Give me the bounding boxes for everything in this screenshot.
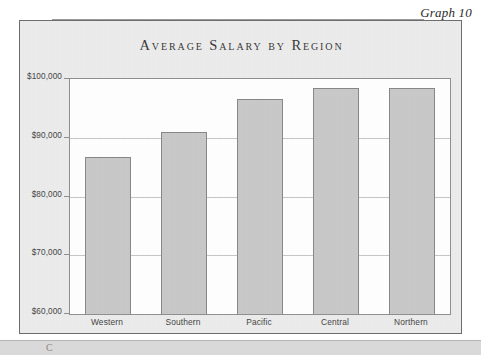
- x-axis-label: Western: [69, 317, 145, 335]
- x-axis-label: Pacific: [221, 317, 297, 335]
- bar-southern[interactable]: [161, 132, 207, 314]
- bar-pacific[interactable]: [237, 99, 283, 314]
- y-axis-tick-label: $70,000: [32, 248, 62, 257]
- x-axis-label: Southern: [145, 317, 221, 335]
- x-axis-label: Northern: [373, 317, 449, 335]
- x-axis: WesternSouthernPacificCentralNorthern: [69, 317, 449, 335]
- bottom-strip-glyph: C: [46, 342, 53, 353]
- bar-central[interactable]: [313, 88, 359, 314]
- y-axis-tick-label: $90,000: [32, 131, 62, 140]
- bottom-strip: C: [0, 340, 481, 355]
- bar-slot: [70, 79, 146, 314]
- y-axis-tick-label: $80,000: [32, 190, 62, 199]
- y-axis-tick-label: $60,000: [32, 307, 62, 316]
- caption-row: Graph 10: [0, 0, 481, 22]
- bar-slot: [222, 79, 298, 314]
- bar-series: [70, 79, 450, 314]
- bar-slot: [298, 79, 374, 314]
- y-axis-tick-label: $100,000: [27, 72, 62, 81]
- bar-slot: [374, 79, 450, 314]
- y-axis: $60,000$70,000$80,000$90,000$100,000: [20, 78, 69, 313]
- x-axis-label: Central: [297, 317, 373, 335]
- bar-western[interactable]: [85, 157, 131, 314]
- bar-northern[interactable]: [389, 88, 435, 314]
- chart-panel: Average Salary by Region $60,000$70,000$…: [19, 20, 462, 334]
- bar-slot: [146, 79, 222, 314]
- plot-area: [69, 78, 451, 315]
- graph-number-label: Graph 10: [420, 5, 472, 21]
- chart-title: Average Salary by Region: [20, 37, 463, 54]
